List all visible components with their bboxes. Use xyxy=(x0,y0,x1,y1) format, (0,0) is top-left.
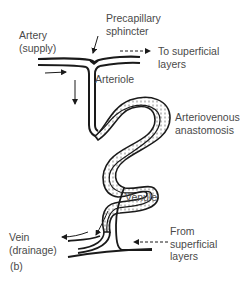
label-ava-line1: Arteriovenous xyxy=(175,111,240,124)
label-vein-line2: (drainage) xyxy=(9,244,57,257)
label-from-superficial-line2: superficial xyxy=(170,238,217,251)
label-from-superficial-line3: layers xyxy=(170,250,217,263)
label-to-superficial-layers: To superficial layers xyxy=(158,45,219,70)
arrow-vein-flow xyxy=(62,232,88,237)
label-venule-text: Venule xyxy=(125,191,157,203)
label-arteriole-text: Arteriole xyxy=(95,73,134,85)
anastomosis-coil xyxy=(95,97,170,232)
label-arteriole: Arteriole xyxy=(95,73,134,86)
vein-vessel xyxy=(68,236,152,257)
label-sphincter-line2: sphincter xyxy=(106,25,161,38)
label-venule: Venule xyxy=(125,191,157,204)
arteriovenous-anastomosis-diagram: Artery (supply) Precapillary sphincter T… xyxy=(0,0,251,285)
panel-label-text: (b) xyxy=(10,260,23,272)
arrow-sphincter-pointer xyxy=(93,36,98,53)
label-artery-line1: Artery xyxy=(19,29,56,42)
label-from-superficial-layers: From superficial layers xyxy=(170,225,217,263)
label-artery-line2: (supply) xyxy=(19,42,56,55)
label-to-superficial-line2: layers xyxy=(158,58,219,71)
label-panel-b: (b) xyxy=(10,260,23,273)
label-arteriovenous-anastomosis: Arteriovenous anastomosis xyxy=(175,111,240,136)
label-from-superficial-line1: From xyxy=(170,225,217,238)
label-vein-line1: Vein xyxy=(9,231,57,244)
label-ava-line2: anastomosis xyxy=(175,124,240,137)
arrow-artery-flow xyxy=(45,72,66,73)
label-sphincter-line1: Precapillary xyxy=(106,12,161,25)
label-artery: Artery (supply) xyxy=(19,29,56,54)
label-precapillary-sphincter: Precapillary sphincter xyxy=(106,12,161,37)
label-to-superficial-line1: To superficial xyxy=(158,45,219,58)
label-vein: Vein (drainage) xyxy=(9,231,57,256)
artery-vessel xyxy=(38,57,140,67)
